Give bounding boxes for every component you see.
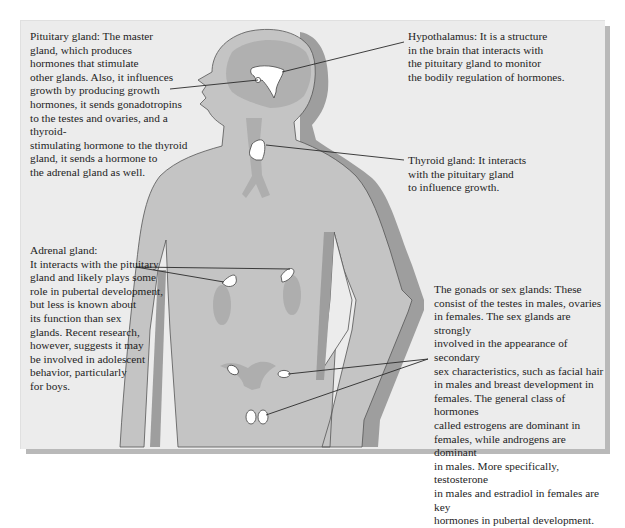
label-gonads: The gonads or sex glands: These consist … bbox=[434, 283, 609, 528]
label-thyroid-gland: Thyroid gland: It interacts with the pit… bbox=[408, 154, 578, 195]
label-adrenal-gland: Adrenal gland: It interacts with the pit… bbox=[30, 244, 190, 394]
label-hypothalamus: Hypothalamus: It is a structure in the b… bbox=[408, 30, 598, 84]
kidney-left bbox=[213, 285, 231, 325]
label-pituitary-gland: Pituitary gland: The master gland, which… bbox=[30, 30, 205, 180]
testis-left bbox=[246, 410, 256, 424]
testis-right bbox=[258, 410, 268, 424]
